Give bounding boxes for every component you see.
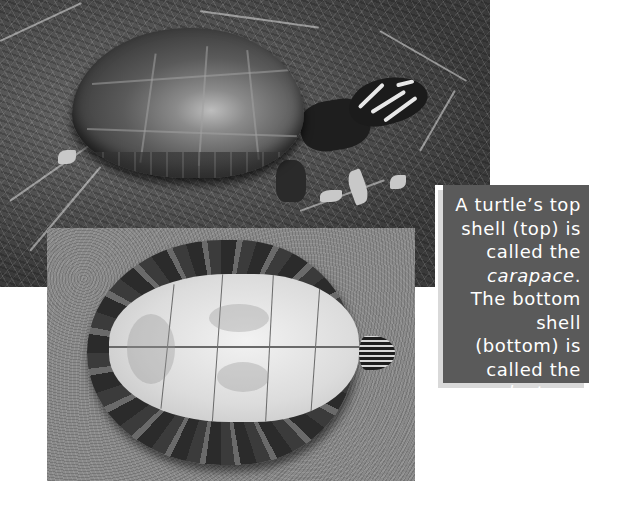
caption-text-1: A turtle’s top shell (top) is called the <box>455 194 581 262</box>
scute-seam <box>87 128 297 137</box>
plastron-seam <box>212 274 223 422</box>
grass-blade <box>0 2 82 42</box>
caption-term-carapace: carapace <box>487 265 575 286</box>
scute-seam <box>198 46 208 166</box>
grass-blade <box>300 179 385 212</box>
scute-seam <box>92 69 292 85</box>
plastron-marking <box>217 362 269 392</box>
caption-box: A turtle’s top shell (top) is called the… <box>443 185 589 383</box>
grass-blade <box>200 10 319 29</box>
caption-term-plastron: plastron <box>496 382 575 403</box>
marginal-scutes <box>72 152 304 178</box>
carapace-shell <box>72 28 304 178</box>
plastron-photo <box>47 228 415 481</box>
plastron-marking <box>127 314 175 384</box>
leaf <box>390 175 406 189</box>
head-stripe <box>396 79 414 87</box>
caption-text-3: . <box>575 382 581 403</box>
scute-seam <box>246 50 259 160</box>
grass-blade <box>380 30 468 82</box>
plastron-shell <box>109 274 359 422</box>
leaf <box>320 190 342 202</box>
turtle-head-underside <box>359 336 395 370</box>
plastron-seam <box>311 284 321 412</box>
scute-seam <box>139 54 156 163</box>
plastron-seam <box>265 274 274 422</box>
plastron-marking <box>209 304 269 332</box>
